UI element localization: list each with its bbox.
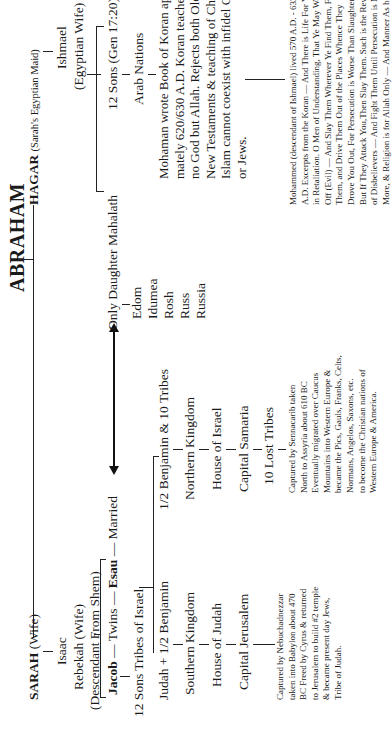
connector	[245, 79, 285, 80]
hagar-role: (Sarah's Egyptian Maid)	[29, 49, 40, 151]
sarah-role: (Wife)	[26, 614, 41, 649]
northern-kingdom: Northern Kingdom	[183, 397, 197, 500]
ishmael-node: Ishmael	[55, 26, 69, 69]
mahalath-node: Only Daughter Mahalath	[106, 195, 120, 330]
north-tribes: 1/2 Benjamin & 10 Tribes	[157, 369, 171, 510]
jacob-name: Jacob	[105, 661, 120, 695]
mohammed-caption: Mohammed (descendant of Ishmael) lived 5…	[288, 0, 392, 205]
house-of-israel: House of Israel	[210, 408, 224, 490]
nation-russ: Russ	[178, 293, 192, 319]
hagar-node: HAGAR (Sarah's Egyptian Maid)	[27, 49, 42, 205]
north-caption: Captured by Sennacarib taken North to As…	[287, 355, 380, 493]
koran-text: Mohaman wrote Book of Koran approxi- mat…	[156, 0, 249, 179]
ten-lost-tribes: 10 Lost Tribes	[262, 407, 276, 485]
capital-samaria: Capital Samaria	[237, 405, 251, 492]
connector	[120, 676, 130, 677]
southern-kingdom: Southern Kingdom	[183, 592, 197, 695]
nation-russia: Russia	[194, 283, 208, 319]
isaac-node: Isaac	[55, 637, 69, 665]
married-label: — Married	[105, 496, 120, 556]
nation-rosh: Rosh	[162, 291, 176, 319]
connector	[153, 456, 154, 653]
capital-jerusalem: Capital Jerusalem	[237, 594, 251, 690]
ishmael-role: (Egyptian Wife)	[72, 3, 86, 90]
twins-label: — Twins —	[105, 592, 120, 658]
connector	[43, 651, 53, 652]
house-of-judah: House of Judah	[210, 603, 224, 687]
married-arrow-icon	[113, 325, 115, 473]
south-tribes: Judah + 1/2 Benjamin	[157, 581, 171, 700]
sarah-node: SARAH (Wife)	[27, 614, 41, 700]
connector	[139, 587, 153, 588]
hagar-name: HAGAR	[26, 155, 41, 205]
south-caption: Captured by Nebuchadnezzar taken into Ba…	[275, 587, 345, 700]
connector	[33, 205, 34, 638]
twelve-sons-node: 12 Sons (Gen 17:20)	[106, 0, 120, 110]
arab-nations: Arab Nations	[132, 33, 146, 105]
twelve-tribes-node: 12 Sons Tribes of Israel	[132, 589, 146, 717]
connector	[96, 27, 97, 192]
esau-name: Esau	[105, 560, 120, 589]
nation-idumea: Idumea	[146, 279, 160, 319]
rebekah-node: Rebekah (Wife)	[72, 604, 86, 690]
nation-edom: Edom	[130, 287, 144, 319]
jacob-esau-row: Jacob — Twins — Esau — Married	[106, 496, 120, 695]
connector	[18, 259, 33, 260]
connector	[100, 560, 101, 698]
sarah-name: SARAH	[26, 653, 41, 700]
